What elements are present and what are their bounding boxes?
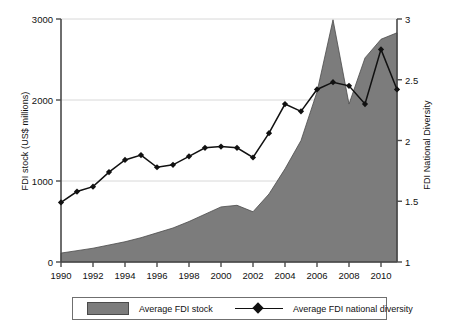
y-axis-right-title: FDI National Diversity [422, 80, 432, 210]
x-tick-2004: 2004 [274, 270, 295, 281]
x-tick-1994: 1994 [114, 270, 135, 281]
y-left-tick-1000: 1000 [32, 176, 53, 187]
y-right-tick-1.5: 1.5 [405, 196, 418, 207]
legend-label-fdi-diversity: Average FDI national diversity [293, 304, 413, 314]
x-tick-2002: 2002 [242, 270, 263, 281]
legend-item-fdi-diversity: Average FDI national diversity [235, 303, 413, 314]
y-right-tick-2: 2 [405, 135, 410, 146]
y-left-tick-3000: 3000 [32, 14, 53, 25]
legend-line-swatch-icon [235, 303, 283, 314]
y-right-tick-1: 1 [405, 257, 410, 268]
x-tick-1996: 1996 [146, 270, 167, 281]
x-tick-1990: 1990 [50, 270, 71, 281]
area-series-fdi-stock [61, 20, 397, 262]
y-right-tick-2.5: 2.5 [405, 74, 418, 85]
y-left-tick-0: 0 [48, 257, 53, 268]
chart-legend: Average FDI stock Average FDI national d… [72, 297, 387, 320]
legend-area-swatch-icon [87, 302, 129, 315]
x-tick-2010: 2010 [370, 270, 391, 281]
y-left-tick-2000: 2000 [32, 95, 53, 106]
x-tick-2008: 2008 [338, 270, 359, 281]
x-tick-1998: 1998 [178, 270, 199, 281]
x-tick-2000: 2000 [210, 270, 231, 281]
legend-item-fdi-stock: Average FDI stock [87, 302, 213, 315]
legend-label-fdi-stock: Average FDI stock [139, 304, 213, 314]
y-axis-left-title: FDI stock (US$ millions) [20, 71, 30, 211]
x-tick-2006: 2006 [306, 270, 327, 281]
chart-figure: FDI stock (US$ millions) FDI National Di… [0, 0, 459, 327]
y-right-tick-3: 3 [405, 14, 410, 25]
x-tick-1992: 1992 [82, 270, 103, 281]
